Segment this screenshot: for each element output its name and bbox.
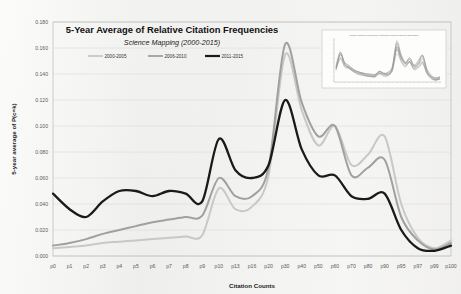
x-tick-label: p30 (281, 263, 290, 269)
y-axis-tick-labels: 0.0000.0200.0400.0600.0800.1000.1200.140… (35, 19, 48, 259)
inset-thumbnail-chart: Relative Citation Frequencies of Citatio… (322, 30, 446, 88)
y-tick-label: 0.160 (35, 45, 48, 51)
y-tick-label: 0.140 (35, 71, 48, 77)
x-tick-label: p80 (364, 263, 373, 269)
legend-label-2006-2010: 2006-2010 (165, 54, 187, 59)
chart-title: 5-Year Average of Relative Citation Freq… (66, 24, 278, 35)
y-tick-label: 0.000 (35, 253, 48, 259)
x-tick-label: p99 (430, 263, 439, 269)
chart-legend: 2000-20052006-20102011-2015 (88, 54, 244, 59)
x-tick-label: p7 (166, 263, 172, 269)
x-tick-label: p70 (347, 263, 356, 269)
x-tick-label: p3 (100, 263, 106, 269)
x-tick-label: p50 (314, 263, 323, 269)
x-tick-label: p100 (445, 263, 456, 269)
y-tick-label: 0.040 (35, 201, 48, 207)
inset-frame (322, 30, 446, 88)
chart-figure: 0.0000.0200.0400.0600.0800.1000.1200.140… (0, 0, 461, 294)
x-tick-label: p10 (215, 263, 224, 269)
chart-subtitle: Science Mapping (2000-2015) (124, 38, 220, 47)
x-tick-label: p16 (248, 263, 257, 269)
y-tick-label: 0.120 (35, 97, 48, 103)
series-line-2011-2015 (53, 100, 451, 251)
x-axis-title: Citation Counts (229, 282, 276, 289)
x-tick-label: p2 (83, 263, 89, 269)
x-tick-label: p60 (331, 263, 340, 269)
x-tick-label: p1 (67, 263, 73, 269)
x-tick-label: p9 (199, 263, 205, 269)
x-tick-label: p90 (380, 263, 389, 269)
x-tick-label: p4 (116, 263, 122, 269)
y-tick-label: 0.080 (35, 149, 48, 155)
y-tick-label: 0.100 (35, 123, 48, 129)
y-axis-title: 5-year average of P(c=k) (10, 103, 17, 174)
x-tick-label: p95 (397, 263, 406, 269)
inset-title: Relative Citation Frequencies of Citatio… (350, 34, 419, 36)
x-tick-label: p13 (231, 263, 240, 269)
y-tick-label: 0.180 (35, 19, 48, 25)
x-tick-label: p5 (133, 263, 139, 269)
y-tick-label: 0.060 (35, 175, 48, 181)
x-tick-label: p97 (414, 263, 423, 269)
x-tick-label: p6 (150, 263, 156, 269)
citation-frequency-line-chart: 0.0000.0200.0400.0600.0800.1000.1200.140… (0, 0, 461, 294)
y-tick-label: 0.020 (35, 227, 48, 233)
x-tick-label: p20 (264, 263, 273, 269)
x-tick-label: p40 (298, 263, 307, 269)
x-tick-label: p8 (183, 263, 189, 269)
legend-label-2000-2005: 2000-2005 (105, 54, 127, 59)
x-axis-tick-labels: p0p1p2p3p4p5p6p7p8p9p10p13p16p20p30p40p5… (50, 263, 457, 269)
legend-label-2011-2015: 2011-2015 (222, 54, 244, 59)
x-tick-label: p0 (50, 263, 56, 269)
